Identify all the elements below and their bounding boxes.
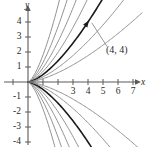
x-tick-label: 7 — [131, 86, 136, 96]
x-tick-label: 3 — [71, 86, 76, 96]
y-tick-label: 4 — [17, 16, 22, 26]
point-label-4-4: (4, 4) — [106, 44, 128, 56]
y-tick-label: 2 — [17, 46, 22, 56]
math-figure-family-of-curves: 345674321-1-2-3-4 (4, 4) x y — [0, 0, 148, 147]
y-tick-label: -1 — [13, 91, 21, 101]
y-tick-label: -3 — [13, 121, 21, 131]
x-tick-label: 4 — [86, 86, 91, 96]
coordinate-plot: 345674321-1-2-3-4 (4, 4) x y — [0, 0, 148, 147]
y-axis-label: y — [24, 0, 30, 10]
y-tick-label: 3 — [17, 31, 22, 41]
y-tick-label: 1 — [17, 61, 22, 71]
plot-background — [0, 0, 148, 147]
y-tick-label: -2 — [13, 106, 21, 116]
x-tick-label: 5 — [101, 86, 106, 96]
x-tick-label: 6 — [116, 86, 121, 96]
x-axis-label: x — [140, 77, 146, 87]
y-tick-label: -4 — [13, 136, 21, 146]
